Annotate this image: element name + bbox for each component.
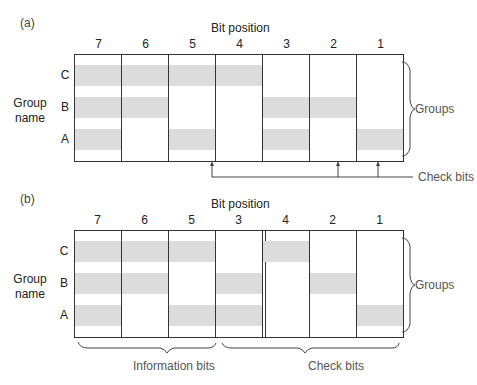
- arrow-up-icon: [376, 161, 380, 166]
- groups-brace-b: [402, 238, 415, 332]
- annotation-lines: [0, 0, 477, 385]
- arrow-up-icon: [336, 161, 340, 166]
- groups-brace-a: [402, 62, 415, 156]
- arrow-up-icon: [210, 161, 214, 166]
- check-bits-brace: [222, 343, 399, 353]
- information-bits-brace: [78, 342, 216, 353]
